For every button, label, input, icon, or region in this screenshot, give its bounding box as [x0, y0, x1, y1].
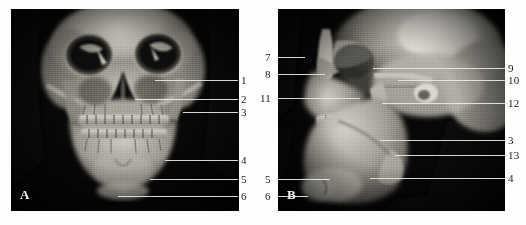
leader-line-a-5	[150, 179, 238, 180]
leader-line-a-6	[118, 196, 238, 197]
callout-label-b-5: 5	[265, 174, 271, 185]
callout-label-a-2: 2	[241, 94, 247, 105]
panel-a-image: A	[11, 9, 239, 211]
leader-line-b-13	[395, 155, 505, 156]
image-vignette-b	[278, 9, 505, 211]
callout-label-b-13: 13	[508, 150, 519, 161]
leader-line-a-3	[183, 112, 238, 113]
callout-label-a-6: 6	[241, 191, 247, 202]
callout-label-b-4: 4	[508, 173, 514, 184]
leader-line-b-11	[278, 98, 360, 99]
callout-label-b-3: 3	[508, 135, 514, 146]
leader-line-b-3	[380, 140, 505, 141]
panel-a-letter: A	[20, 187, 29, 203]
frontal-skull-rendering	[11, 9, 239, 211]
callout-label-b-12: 12	[508, 98, 519, 109]
image-vignette	[11, 9, 239, 211]
callout-label-a-1: 1	[241, 75, 247, 86]
callout-label-b-8: 8	[265, 69, 271, 80]
callout-label-b-11: 11	[260, 93, 271, 104]
leader-line-b-4	[370, 178, 505, 179]
callout-label-a-5: 5	[241, 174, 247, 185]
leader-line-b-6	[278, 196, 308, 197]
leader-line-b-10	[398, 80, 505, 81]
callout-label-b-9: 9	[508, 63, 514, 74]
leader-line-b-5	[278, 179, 330, 180]
lateral-skull-rendering	[278, 9, 505, 211]
leader-line-b-7	[278, 57, 305, 58]
panel-b-letter: B	[287, 187, 296, 203]
panel-b-image: B	[278, 9, 505, 211]
leader-line-a-2	[135, 99, 238, 100]
callout-label-a-4: 4	[241, 155, 247, 166]
leader-line-b-8	[278, 74, 325, 75]
callout-label-b-7: 7	[265, 52, 271, 63]
callout-label-a-3: 3	[241, 107, 247, 118]
anatomical-figure: A	[0, 0, 526, 225]
callout-label-b-10: 10	[508, 75, 519, 86]
leader-line-a-4	[165, 160, 238, 161]
leader-line-b-12	[382, 103, 505, 104]
callout-label-b-6: 6	[265, 191, 271, 202]
leader-line-b-9	[373, 68, 505, 69]
leader-line-a-1	[155, 80, 238, 81]
